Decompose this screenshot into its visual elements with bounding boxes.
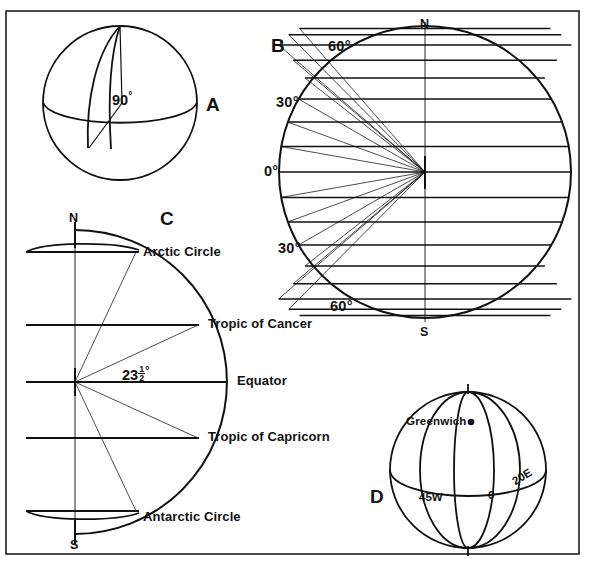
radius-80n xyxy=(300,29,425,172)
meridian-label-0: 0 xyxy=(488,489,494,501)
meridian-label-45w: 45W xyxy=(419,491,443,503)
zone-label-antarctic-circle: Antarctic Circle xyxy=(143,509,241,524)
pole-label-north-b: N xyxy=(420,17,429,31)
angle-label-23-and-a-half-degrees: 2312° xyxy=(122,364,149,383)
sphere-a-meridian-right xyxy=(110,26,120,149)
meridian-0 xyxy=(468,392,494,548)
pole-label-north-c: N xyxy=(69,211,78,225)
figure-drawing: .ink{fill:none;stroke:#111111;} .w2{stro… xyxy=(0,0,590,569)
panel-letter-b: B xyxy=(271,35,285,57)
zone-label-arctic-circle: Arctic Circle xyxy=(143,244,221,259)
pole-label-south-c: S xyxy=(70,538,78,552)
zone-label-equator: Equator xyxy=(237,373,287,388)
radius-40s xyxy=(305,172,425,266)
figure-root: .ink{fill:none;stroke:#111111;} .w2{stro… xyxy=(0,0,590,569)
radius-arctic xyxy=(75,252,136,382)
latitude-label-30-north: 30° xyxy=(276,94,299,110)
sphere-a-equatorial-radius xyxy=(89,103,122,148)
zone-label-tropic-of-cancer: Tropic of Cancer xyxy=(208,316,312,331)
arc-antarctic-circle xyxy=(26,511,139,519)
radius-50n xyxy=(293,60,425,172)
panel-letter-c: C xyxy=(160,208,174,230)
latitude-label-equator-b: 0° xyxy=(264,163,278,179)
arc-arctic-circle xyxy=(26,244,139,252)
panel-b-drawing xyxy=(279,22,572,322)
latitude-label-60-south: 60° xyxy=(330,298,353,314)
panel-letter-d: D xyxy=(370,486,384,508)
panel-letter-a: A xyxy=(206,94,220,116)
radius-capricorn xyxy=(75,382,198,438)
pole-label-south-b: S xyxy=(420,325,428,339)
zone-label-tropic-of-capricorn: Tropic of Capricorn xyxy=(208,429,330,444)
greenwich-label: Greenwich xyxy=(406,415,467,427)
radius-60s xyxy=(279,172,425,299)
latitude-label-30-south: 30° xyxy=(278,240,301,256)
greenwich-marker-dot xyxy=(468,419,475,426)
latitude-label-60-north: 60° xyxy=(328,38,351,54)
radius-40n xyxy=(305,78,425,172)
radius-antarctic xyxy=(75,382,136,511)
angle-label-90-degrees: 90° xyxy=(112,90,132,108)
